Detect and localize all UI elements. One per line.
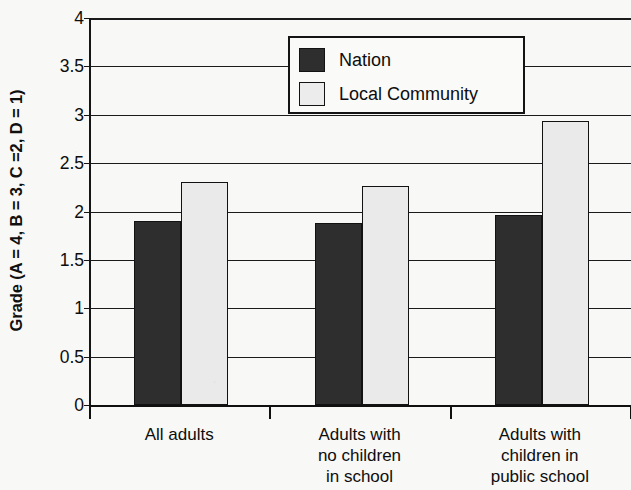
y-axis-tick: [84, 66, 91, 67]
y-axis-title-text: Grade (A = 4, B = 3, C =2, D = 1): [8, 89, 27, 331]
y-axis-tick-label: 0.5: [40, 346, 84, 367]
y-axis-tick-label: 3: [40, 104, 84, 125]
gridline: [91, 115, 631, 116]
legend-swatch-nation-icon: [299, 48, 325, 72]
bar-nation: [315, 223, 362, 405]
y-axis-tick: [84, 212, 91, 213]
y-axis-tick: [84, 357, 91, 358]
x-axis-tick: [450, 405, 452, 419]
y-axis-tick-labels: 00.511.522.533.54: [36, 0, 84, 420]
x-axis-line: [89, 405, 631, 407]
legend-item-nation: Nation: [299, 43, 523, 77]
bar-nation: [134, 221, 181, 405]
legend-swatch-local-community-icon: [299, 82, 325, 106]
legend: Nation Local Community: [288, 36, 525, 114]
y-axis-tick-label: 2.5: [40, 153, 84, 174]
y-axis-tick-label: 4: [40, 8, 84, 29]
y-axis-tick: [84, 308, 91, 309]
bar-local-community: [362, 186, 409, 405]
y-axis-tick-label: 0: [40, 395, 84, 416]
y-axis-tick-label: 1.5: [40, 249, 84, 270]
gridline: [91, 18, 631, 20]
y-axis-tick-label: 1: [40, 298, 84, 319]
x-axis-category-label-line: Adults with: [269, 424, 449, 445]
x-axis-category-label-line: no children: [269, 445, 449, 466]
x-axis-tick: [89, 405, 91, 419]
x-axis-category-label-line: children in: [450, 445, 630, 466]
y-axis-tick: [84, 260, 91, 261]
x-axis-category-label-line: public school: [450, 466, 630, 487]
x-axis-tick: [269, 405, 271, 419]
bar-chart-figure: Grade (A = 4, B = 3, C =2, D = 1) 00.511…: [0, 0, 631, 490]
y-axis-tick: [84, 18, 91, 19]
y-axis-tick-label: 3.5: [40, 56, 84, 77]
legend-item-local-community: Local Community: [299, 77, 523, 111]
legend-label-local-community: Local Community: [339, 84, 478, 105]
x-axis-category-label: Adults withno childrenin school: [269, 424, 449, 487]
legend-label-nation: Nation: [339, 50, 391, 71]
y-axis-title: Grade (A = 4, B = 3, C =2, D = 1): [0, 0, 34, 420]
y-axis-tick: [84, 115, 91, 116]
y-axis-tick-label: 2: [40, 201, 84, 222]
x-axis-category-label: Adults withchildren inpublic school: [450, 424, 630, 487]
x-axis-category-label-line: in school: [269, 466, 449, 487]
bar-local-community: [181, 182, 228, 405]
bar-local-community: [542, 121, 589, 405]
bar-nation: [495, 215, 542, 405]
x-axis-category-label: All adults: [89, 424, 269, 445]
y-axis-tick: [84, 163, 91, 164]
x-axis-category-label-line: All adults: [89, 424, 269, 445]
x-axis-category-label-line: Adults with: [450, 424, 630, 445]
